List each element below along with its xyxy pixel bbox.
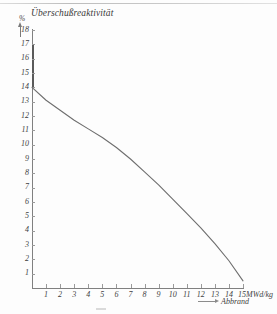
data-curve xyxy=(0,0,277,314)
arrow-right-icon xyxy=(215,299,219,303)
x-caption-rule xyxy=(198,301,215,302)
chart-page: Überschußreaktivität % 18171615141312111… xyxy=(0,0,277,314)
x-axis-caption: Abbrand xyxy=(221,297,249,306)
plot-area: 181716151413121110987654321 123456789101… xyxy=(0,0,277,314)
